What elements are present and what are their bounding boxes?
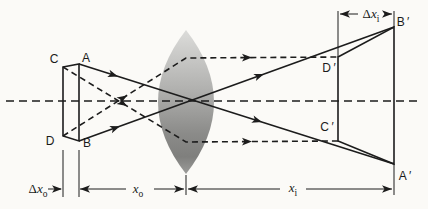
label-D-prime: D ′ [322, 61, 336, 75]
label-B-prime: B ′ [397, 15, 410, 29]
label-C-prime: C ′ [320, 120, 334, 134]
label-A-prime: A ′ [399, 169, 412, 183]
label-D: D [46, 134, 55, 148]
label-C: C [50, 52, 59, 66]
figure-background [0, 0, 428, 209]
label-B: B [83, 136, 91, 150]
label-A: A [82, 51, 90, 65]
optics-figure: CADBD ′C ′B ′A ′ΔxoxoxiΔxi [0, 0, 428, 209]
optics-diagram-svg: CADBD ′C ′B ′A ′ΔxoxoxiΔxi [0, 0, 428, 209]
